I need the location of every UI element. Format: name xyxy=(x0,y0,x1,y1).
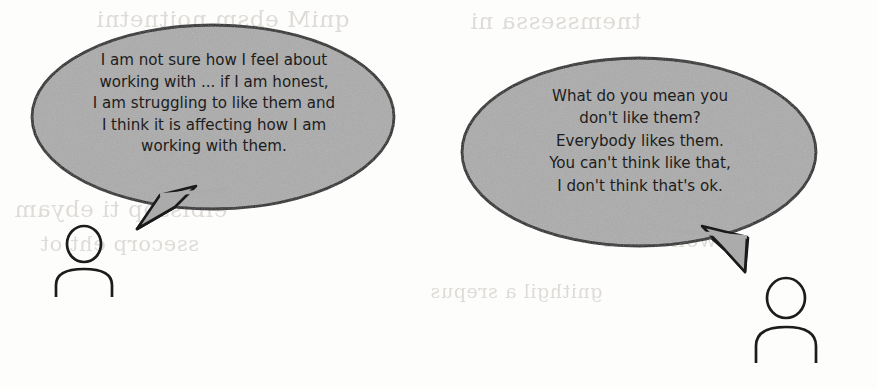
left-bubble-text: I am not sure how I feel about working w… xyxy=(52,50,376,158)
person-head-icon xyxy=(767,278,805,318)
person-right xyxy=(752,275,828,369)
person-head-icon xyxy=(67,226,101,262)
person-outline-icon xyxy=(752,275,828,365)
person-left xyxy=(52,223,128,303)
person-outline-icon xyxy=(52,223,128,299)
person-shoulders-icon xyxy=(56,269,112,297)
conversation-illustration: qniM ebsm noitnetni tnemssessa ni elbiss… xyxy=(0,0,877,388)
person-shoulders-icon xyxy=(756,327,816,363)
right-bubble-text: What do you mean you don't like them? Ev… xyxy=(480,85,800,197)
